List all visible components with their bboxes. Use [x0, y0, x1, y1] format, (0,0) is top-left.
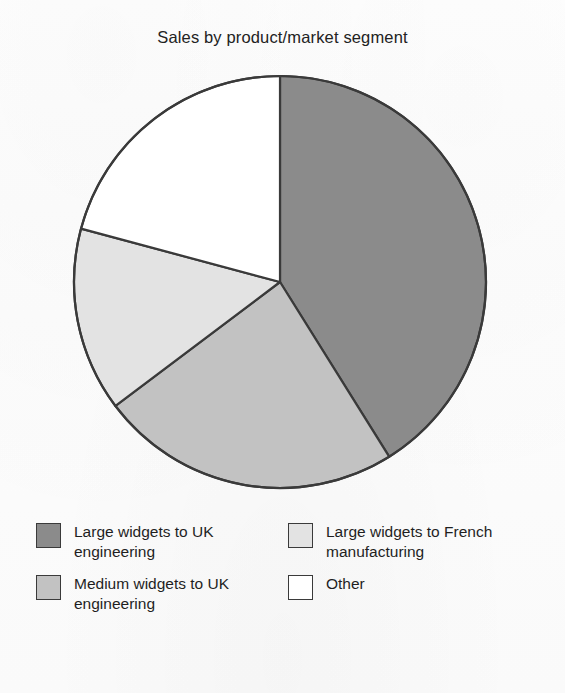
legend-swatch	[288, 523, 313, 548]
legend-label: Large widgets to French manufacturing	[326, 522, 526, 562]
legend-item[interactable]: Medium widgets to UK engineering	[36, 574, 288, 614]
legend-swatch	[36, 575, 61, 600]
legend-label: Large widgets to UK engineering	[74, 522, 274, 562]
chart-title: Sales by product/market segment	[0, 28, 565, 47]
legend-item[interactable]: Other	[288, 574, 536, 600]
legend-item[interactable]: Large widgets to French manufacturing	[288, 522, 536, 562]
chart-legend: Large widgets to UK engineeringLarge wid…	[36, 522, 536, 626]
legend-item[interactable]: Large widgets to UK engineering	[36, 522, 288, 562]
legend-label: Medium widgets to UK engineering	[74, 574, 274, 614]
legend-swatch	[288, 575, 313, 600]
pie-svg	[70, 72, 490, 492]
legend-label: Other	[326, 574, 365, 594]
pie-slice-group	[74, 76, 486, 488]
pie-chart-area	[70, 72, 490, 492]
pie-chart-figure: Sales by product/market segment Large wi…	[0, 0, 565, 693]
legend-swatch	[36, 523, 61, 548]
